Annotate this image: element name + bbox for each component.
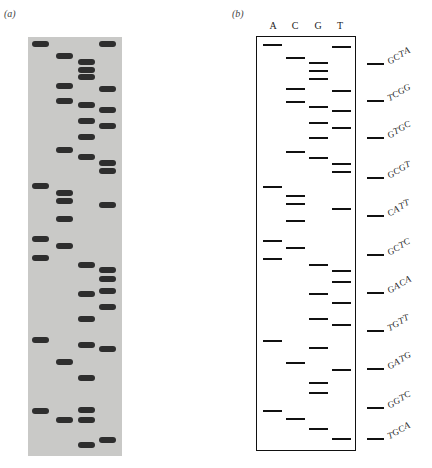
schematic-band-g xyxy=(309,428,328,430)
gel-image xyxy=(28,37,122,456)
gel-band-t xyxy=(99,160,116,166)
panel-b-label: (b) xyxy=(232,8,244,19)
schematic-band-a xyxy=(263,340,282,342)
schematic-band-t xyxy=(332,369,351,371)
sequence-label: TGCA xyxy=(387,426,413,441)
gel-band-a xyxy=(32,236,49,242)
gel-band-g xyxy=(78,417,95,423)
gel-band-a xyxy=(32,408,49,414)
schematic-band-c xyxy=(286,101,305,103)
panel-a-label: (a) xyxy=(4,8,16,19)
gel-band-g xyxy=(78,118,95,124)
schematic-band-a xyxy=(263,186,282,188)
sequence-label: GCTA xyxy=(387,51,413,66)
sequence-tick xyxy=(367,177,384,179)
sequence-label: CATT xyxy=(387,204,412,218)
schematic-band-c xyxy=(286,203,305,205)
sequence-tick xyxy=(367,254,384,256)
sequence-tick xyxy=(367,100,384,102)
gel-band-c xyxy=(56,190,73,196)
gel-band-c xyxy=(56,198,73,204)
schematic-band-g xyxy=(309,392,328,394)
schematic-band-c xyxy=(286,88,305,90)
gel-band-t xyxy=(99,41,116,47)
gel-band-g xyxy=(78,442,95,448)
gel-band-t xyxy=(99,304,116,310)
schematic-band-c xyxy=(286,247,305,249)
sequence-tick xyxy=(367,63,384,65)
lane-header-a: A xyxy=(263,20,283,31)
schematic-band-t xyxy=(332,324,351,326)
gel-band-t xyxy=(99,346,116,352)
sequence-tick xyxy=(367,368,384,370)
schematic-band-a xyxy=(263,240,282,242)
schematic-band-g xyxy=(309,318,328,320)
gel-band-c xyxy=(56,98,73,104)
schematic-band-t xyxy=(332,127,351,129)
gel-band-t xyxy=(99,168,116,174)
schematic-band-g xyxy=(309,106,328,108)
sequence-label: TCGG xyxy=(387,88,413,103)
gel-band-c xyxy=(56,83,73,89)
schematic-band-t xyxy=(332,270,351,272)
sequence-tick xyxy=(367,330,384,332)
schematic-band-g xyxy=(309,347,328,349)
sequence-tick xyxy=(367,292,384,294)
schematic-band-t xyxy=(332,302,351,304)
schematic-band-a xyxy=(263,410,282,412)
schematic-band-g xyxy=(309,137,328,139)
gel-band-t xyxy=(99,288,116,294)
gel-band-g xyxy=(78,342,95,348)
gel-band-a xyxy=(32,183,49,189)
schematic-band-t xyxy=(332,438,351,440)
gel-band-c xyxy=(56,216,73,222)
schematic-band-a xyxy=(263,258,282,260)
sequence-label: GACA xyxy=(387,280,414,295)
sequence-tick xyxy=(367,407,384,409)
schematic-band-t xyxy=(332,163,351,165)
gel-band-a xyxy=(32,255,49,261)
gel-band-a xyxy=(32,337,49,343)
schematic-band-c xyxy=(286,418,305,420)
gel-band-c xyxy=(56,147,73,153)
gel-band-c xyxy=(56,417,73,423)
gel-band-g xyxy=(78,74,95,80)
gel-band-g xyxy=(78,134,95,140)
sequence-label: GCTC xyxy=(387,242,412,257)
gel-band-a xyxy=(32,41,49,47)
gel-band-g xyxy=(78,67,95,73)
schematic-band-g xyxy=(309,293,328,295)
schematic-band-c xyxy=(286,195,305,197)
sequence-tick xyxy=(367,438,384,440)
gel-band-g xyxy=(78,407,95,413)
gel-band-t xyxy=(99,267,116,273)
gel-band-g xyxy=(78,102,95,108)
schematic-band-g xyxy=(309,122,328,124)
schematic-band-t xyxy=(332,90,351,92)
gel-band-g xyxy=(78,262,95,268)
lane-header-c: C xyxy=(285,20,305,31)
gel-band-c xyxy=(56,53,73,59)
schematic-band-g xyxy=(309,264,328,266)
schematic-band-g xyxy=(309,70,328,72)
gel-band-g xyxy=(78,59,95,65)
gel-band-t xyxy=(99,276,116,282)
lane-header-t: T xyxy=(330,20,350,31)
sequence-label: GATG xyxy=(387,356,413,371)
gel-band-t xyxy=(99,202,116,208)
schematic-band-g xyxy=(309,62,328,64)
schematic-band-t xyxy=(332,46,351,48)
sequence-label: GTGC xyxy=(387,125,413,140)
sequence-label: GGTC xyxy=(387,395,413,410)
gel-band-g xyxy=(78,375,95,381)
gel-band-g xyxy=(78,154,95,160)
sequence-tick xyxy=(367,137,384,139)
schematic-band-t xyxy=(332,171,351,173)
sequence-label: GCGT xyxy=(387,165,413,180)
gel-band-g xyxy=(78,316,95,322)
gel-band-t xyxy=(99,123,116,129)
schematic-band-t xyxy=(332,281,351,283)
schematic-band-c xyxy=(286,57,305,59)
schematic-band-a xyxy=(263,44,282,46)
schematic-band-g xyxy=(309,382,328,384)
